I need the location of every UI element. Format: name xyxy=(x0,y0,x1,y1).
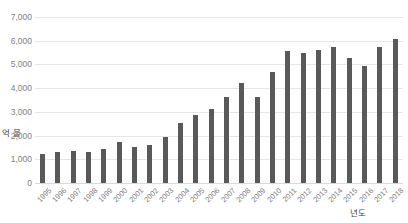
y-axis-tick-label: 5,000 xyxy=(11,59,32,69)
x-axis-tick-label: 2000 xyxy=(112,186,130,204)
x-axis-tick-label: 2011 xyxy=(281,186,299,204)
bar-slot xyxy=(188,17,203,183)
x-axis-tick-label: 1998 xyxy=(81,186,99,204)
bar-slot xyxy=(388,17,403,183)
bar-slot xyxy=(81,17,96,183)
bar-slot xyxy=(35,17,50,183)
x-axis-tick-labels: 1995199619971998199920002001200220032004… xyxy=(35,183,403,223)
bar-slot xyxy=(296,17,311,183)
bar xyxy=(255,97,260,183)
bar xyxy=(393,39,398,183)
bar xyxy=(178,123,183,183)
bar xyxy=(147,145,152,183)
bar xyxy=(377,47,382,183)
bar-chart: 억 불 7,0006,0005,0004,0003,0002,0001,0000… xyxy=(0,0,408,223)
bar xyxy=(285,51,290,183)
x-axis-tick-label: 2002 xyxy=(142,186,160,204)
x-axis-title: 년도 xyxy=(350,206,367,218)
x-axis-tick-label: 1996 xyxy=(50,186,68,204)
y-axis-tick-label: 1,000 xyxy=(11,154,32,164)
bar-slot xyxy=(173,17,188,183)
bar-slot xyxy=(234,17,249,183)
y-axis-tick-label: 3,000 xyxy=(11,107,32,117)
x-axis-tick-label: 2009 xyxy=(250,186,268,204)
bar-slot xyxy=(311,17,326,183)
x-axis-tick-label: 2015 xyxy=(342,186,360,204)
x-axis-tick-label: 1997 xyxy=(66,186,84,204)
x-axis-tick-label: 2014 xyxy=(326,186,344,204)
x-axis-tick-label: 2018 xyxy=(388,186,406,204)
bar-slot xyxy=(127,17,142,183)
bar-slot xyxy=(219,17,234,183)
bar xyxy=(301,53,306,183)
bar xyxy=(331,47,336,183)
bar xyxy=(209,109,214,183)
bar-slot xyxy=(342,17,357,183)
y-axis-tick-labels: 7,0006,0005,0004,0003,0002,0001,0000 xyxy=(0,0,32,223)
bar-slot xyxy=(280,17,295,183)
x-axis-tick-label: 2013 xyxy=(311,186,329,204)
bar-slot xyxy=(357,17,372,183)
y-axis-tick-label: 4,000 xyxy=(11,83,32,93)
bar xyxy=(316,50,321,183)
bar xyxy=(239,83,244,183)
bar xyxy=(163,137,168,183)
bar xyxy=(270,72,275,183)
bar-slot xyxy=(142,17,157,183)
x-axis-tick-label: 2005 xyxy=(188,186,206,204)
bar-slot xyxy=(250,17,265,183)
x-axis-tick-label: 1995 xyxy=(35,186,53,204)
bar xyxy=(193,115,198,183)
y-axis-tick-label: 6,000 xyxy=(11,36,32,46)
x-axis-tick-label: 2008 xyxy=(234,186,252,204)
bar-slot xyxy=(204,17,219,183)
bar xyxy=(117,142,122,183)
bar-slot xyxy=(326,17,341,183)
x-axis-tick-label: 2012 xyxy=(296,186,314,204)
x-axis-tick-label: 2016 xyxy=(357,186,375,204)
bar xyxy=(71,151,76,183)
bar xyxy=(224,97,229,183)
x-axis-tick-label: 2017 xyxy=(372,186,390,204)
bar-slot xyxy=(112,17,127,183)
bar-slot xyxy=(50,17,65,183)
x-axis-tick-label: 1999 xyxy=(96,186,114,204)
x-axis-tick-label: 2003 xyxy=(158,186,176,204)
bar xyxy=(362,66,367,183)
bar xyxy=(132,147,137,183)
bar xyxy=(101,149,106,183)
x-axis-tick-label: 2004 xyxy=(173,186,191,204)
bar-slot xyxy=(265,17,280,183)
x-axis-tick-label: 2007 xyxy=(219,186,237,204)
bar xyxy=(86,152,91,183)
bar-slot xyxy=(372,17,387,183)
y-axis-tick-label: 0 xyxy=(27,178,32,188)
bar-slot xyxy=(66,17,81,183)
y-axis-tick-label: 7,000 xyxy=(11,12,32,22)
plot-area xyxy=(35,17,403,183)
bar-slot xyxy=(96,17,111,183)
bar xyxy=(40,154,45,183)
x-axis-tick-label: 2001 xyxy=(127,186,145,204)
bar-series xyxy=(35,17,403,183)
bar xyxy=(55,152,60,183)
y-axis-tick-label: 2,000 xyxy=(11,131,32,141)
bar-slot xyxy=(158,17,173,183)
x-axis-tick-label: 2010 xyxy=(265,186,283,204)
x-axis-tick-label: 2006 xyxy=(204,186,222,204)
bar xyxy=(347,58,352,183)
